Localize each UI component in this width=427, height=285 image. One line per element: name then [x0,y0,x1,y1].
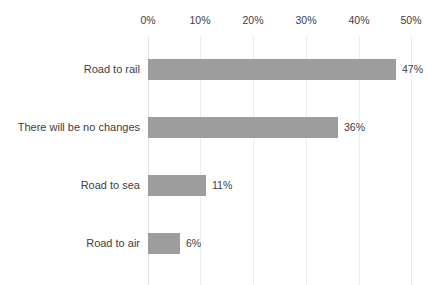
xtick-label-40: 40% [348,14,369,26]
xtick-label-30: 30% [295,14,316,26]
category-label-road-to-sea: Road to sea [0,175,140,196]
plot-area: 0% 10% 20% 30% 40% 50% 47% 36% 11% 6% [148,36,412,285]
bar-road-to-rail [148,59,396,80]
horizontal-bar-chart: to from road. Road to rail There will be… [0,0,427,285]
xtick-label-20: 20% [242,14,263,26]
clipped-heading-text: to from road. [75,0,129,1]
category-axis: Road to rail There will be no changes Ro… [0,36,140,285]
category-label-road-to-rail: Road to rail [0,59,140,80]
bar-road-to-sea [148,175,206,196]
bar-value-road-to-rail: 47% [402,59,423,80]
bar-value-no-changes: 36% [344,117,365,138]
bar-value-road-to-sea: 11% [212,175,232,196]
xtick-label-50: 50% [400,14,421,26]
xtick-label-10: 10% [189,14,210,26]
category-label-no-changes: There will be no changes [0,117,140,138]
category-label-road-to-air: Road to air [0,233,140,254]
bar-value-road-to-air: 6% [186,233,201,254]
bar-road-to-air [148,233,180,254]
xtick-label-0: 0% [140,14,155,26]
bar-no-changes [148,117,338,138]
